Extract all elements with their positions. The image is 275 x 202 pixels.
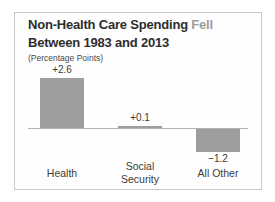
chart-card: Non-Health Care Spending Fell Between 19… [14, 12, 262, 190]
bar-chart-plot: +2.6 +0.1 −1.2 Health Social Security Al… [15, 13, 261, 189]
category-label-all-other: All Other [186, 159, 250, 187]
bar-social-security [118, 126, 162, 128]
bar-value-label-health: +2.6 [28, 64, 96, 76]
bar-all-other [196, 129, 240, 152]
bar-health [40, 78, 84, 128]
category-label-health: Health [30, 159, 94, 187]
category-label-social-security: Social Security [108, 159, 172, 187]
bar-value-label-social-security: +0.1 [106, 112, 174, 124]
